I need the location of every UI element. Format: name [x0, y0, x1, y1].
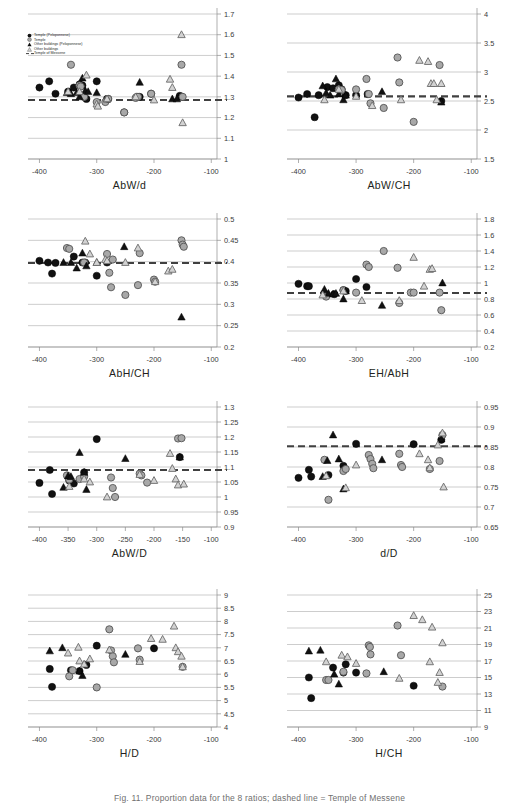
data-point	[82, 237, 89, 244]
data-point	[134, 645, 141, 652]
legend-label: Temple of Messene	[34, 51, 65, 56]
series-open-triangle	[64, 622, 186, 669]
data-point	[352, 289, 359, 296]
data-point	[394, 54, 401, 61]
y-tick-label: 1.8	[484, 215, 494, 224]
y-tick-label: 0.9	[224, 523, 234, 532]
data-point	[48, 270, 55, 277]
data-point	[331, 670, 338, 677]
data-point	[321, 286, 328, 293]
data-point	[295, 94, 302, 101]
y-tick-label: 1.2	[224, 113, 234, 122]
data-point	[67, 61, 74, 68]
y-tick-label: 1.4	[484, 247, 494, 256]
x-tick-label: -300	[89, 167, 104, 176]
y-tick-label: 8	[224, 617, 228, 626]
data-point	[46, 78, 53, 85]
x-tick-label: -400	[32, 167, 47, 176]
data-point	[180, 480, 187, 487]
y-tick-label: 17	[484, 657, 492, 666]
y-tick-label: 7.5	[224, 630, 234, 639]
x-tick-label: -200	[406, 735, 421, 744]
data-point	[410, 612, 417, 619]
y-tick-label: 11	[484, 706, 492, 715]
x-tick-label: -100	[204, 535, 219, 544]
data-point	[52, 90, 59, 97]
plot-area: 0.650.70.750.80.850.90.95-400-300-200-10…	[259, 393, 519, 573]
plot-area: 0.20.40.60.811.21.41.61.8-400-300-200-10…	[259, 205, 519, 393]
data-point	[134, 282, 141, 289]
data-point	[378, 302, 385, 309]
data-point	[325, 496, 332, 503]
data-point	[394, 622, 401, 629]
y-tick-label: 1.25	[224, 418, 238, 427]
data-point	[122, 455, 129, 462]
data-point	[178, 435, 185, 442]
data-point	[358, 297, 365, 304]
data-point	[305, 283, 312, 290]
y-tick-label: 21	[484, 624, 492, 633]
y-tick-label: 15	[484, 673, 492, 682]
panel-h-d: 44.555.566.577.588.59-400-300-200-100H/D	[0, 573, 259, 773]
x-tick-label: -300	[89, 355, 104, 364]
data-point	[59, 644, 66, 651]
y-tick-label: 0.35	[224, 279, 238, 288]
y-tick-label: 1.15	[224, 448, 238, 457]
y-tick-label: 3	[484, 68, 488, 77]
data-point	[424, 58, 431, 65]
figure-caption: Fig. 11. Proportion data for the 8 ratio…	[0, 793, 519, 809]
data-point	[366, 643, 373, 650]
panel-abw-ch: 1.522.533.54-400-300-200-100AbW/CH	[259, 0, 519, 205]
x-axis-label: AbW/d	[0, 179, 259, 191]
data-point	[111, 493, 118, 500]
dashed-line-icon	[26, 51, 34, 56]
data-point	[69, 667, 76, 674]
y-tick-label: 1	[484, 279, 488, 288]
data-point	[352, 660, 359, 667]
plot-area: 44.555.566.577.588.59-400-300-200-100H/D	[0, 573, 259, 773]
data-point	[416, 450, 423, 457]
data-point	[394, 264, 401, 271]
data-point	[315, 92, 322, 99]
data-point	[367, 651, 374, 658]
data-point	[122, 291, 129, 298]
y-tick-label: 4	[484, 10, 488, 19]
data-point	[76, 657, 83, 664]
data-point	[93, 89, 100, 96]
x-axis-label: AbW/D	[0, 547, 259, 559]
y-tick-label: 1.05	[224, 478, 238, 487]
data-point	[48, 490, 55, 497]
figure-root: 11.11.21.31.41.51.61.7-400-300-200-100Ab…	[0, 0, 519, 809]
y-tick-label: 0.9	[484, 423, 494, 432]
data-point	[86, 250, 93, 257]
data-point	[436, 669, 443, 676]
y-tick-label: 0.25	[224, 321, 238, 330]
data-point	[363, 670, 370, 677]
y-tick-label: 9	[224, 591, 228, 600]
data-point	[93, 78, 100, 85]
data-point	[305, 647, 312, 654]
data-point	[380, 668, 387, 675]
data-point	[335, 455, 342, 462]
data-point	[436, 61, 443, 68]
x-tick-label: -400	[291, 355, 306, 364]
x-tick-label: -100	[464, 167, 479, 176]
data-point	[83, 486, 90, 493]
data-point	[159, 635, 166, 642]
data-point	[36, 84, 43, 91]
data-point	[416, 57, 423, 64]
data-point	[178, 31, 185, 38]
data-point	[340, 668, 347, 675]
data-point	[363, 75, 370, 82]
data-point	[93, 642, 100, 649]
series-open-circle	[63, 435, 185, 501]
data-point	[436, 457, 443, 464]
y-tick-label: 0.4	[224, 257, 234, 266]
data-point	[44, 259, 51, 266]
y-tick-label: 1.5	[224, 51, 234, 60]
plot-area: 1.522.533.54-400-300-200-100AbW/CH	[259, 0, 519, 205]
data-point	[93, 272, 100, 279]
data-point	[295, 280, 302, 287]
x-tick-label: -400	[32, 535, 47, 544]
y-tick-label: 1.7	[224, 10, 234, 19]
